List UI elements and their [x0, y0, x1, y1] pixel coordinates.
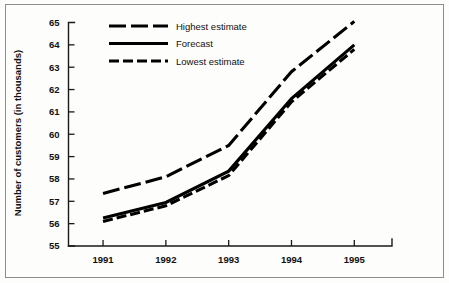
chart-page: 5556575859606162636465 19911992199319941… [0, 0, 449, 283]
x-tick-label-1992: 1992 [155, 254, 176, 265]
x-tick-label-1993: 1993 [218, 254, 239, 265]
y-axis: 5556575859606162636465 [49, 17, 75, 252]
series-line-highest-estimate [103, 21, 354, 193]
chart-legend[interactable]: Highest estimateForecastLowest estimate [109, 21, 247, 67]
y-tick-label-59: 59 [49, 151, 60, 162]
y-tick-label-55: 55 [49, 240, 60, 251]
legend-label-lowest-estimate: Lowest estimate [176, 56, 245, 67]
y-tick-label-56: 56 [49, 218, 60, 229]
y-tick-label-60: 60 [49, 129, 60, 140]
y-tick-label-62: 62 [49, 84, 60, 95]
x-tick-label-1991: 1991 [92, 254, 114, 265]
y-tick-label-57: 57 [49, 196, 60, 207]
x-tick-label-1995: 1995 [344, 254, 366, 265]
y-tick-label-65: 65 [49, 17, 60, 28]
legend-label-forecast: Forecast [176, 38, 213, 49]
y-tick-label-58: 58 [49, 173, 60, 184]
series-lines [103, 21, 354, 221]
y-tick-label-61: 61 [49, 106, 60, 117]
series-line-forecast [103, 45, 354, 218]
y-axis-title: Number of customers (in thousands) [12, 50, 23, 216]
x-tick-label-1994: 1994 [281, 254, 303, 265]
legend-label-highest-estimate: Highest estimate [176, 21, 247, 32]
x-axis: 19911992199319941995 [69, 239, 393, 265]
y-tick-label-63: 63 [49, 62, 60, 73]
y-tick-label-64: 64 [49, 39, 60, 50]
line-chart: 5556575859606162636465 19911992199319941… [0, 0, 449, 283]
chart-svg: 5556575859606162636465 19911992199319941… [0, 0, 449, 283]
